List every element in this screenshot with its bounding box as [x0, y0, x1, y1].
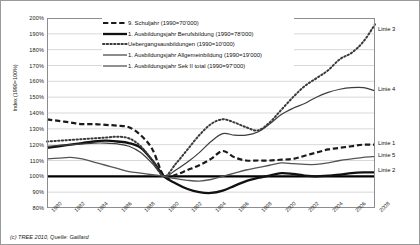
y-tick-label: 120%	[29, 142, 44, 148]
y-tick-label: 90%	[33, 189, 45, 195]
legend-item: Uebergangsausbildungen (1990=10'000)	[102, 39, 292, 50]
legend-item: 9. Schuljahr (1990=70'000)	[102, 18, 292, 29]
series-side-label: Linie 4	[378, 86, 395, 92]
y-tick-label: 170%	[29, 63, 44, 69]
y-tick-label: 160%	[29, 78, 44, 84]
series-side-label: Linie 5	[378, 152, 395, 158]
source-credit: (c) TREE 2010, Quelle: Gaillard	[10, 234, 89, 240]
legend-item-label: 9. Schuljahr (1990=70'000)	[128, 20, 199, 26]
legend-item: 1. Ausbildungsjahr Berufsbildung (1990=7…	[102, 29, 292, 40]
series-side-label: Linie 3	[378, 26, 395, 32]
legend-item: 1. Ausbildungsjahr Allgemeinbildung (199…	[102, 50, 292, 61]
legend-item-label: Uebergangsausbildungen (1990=10'000)	[128, 41, 235, 47]
legend-item-label: 1. Ausbildungsjahr Berufsbildung (1990=7…	[128, 31, 253, 37]
legend-item-label: 1. Ausbildungsjahr Allgemeinbildung (199…	[128, 52, 262, 58]
y-tick-label: 200%	[29, 15, 44, 21]
x-axis-tick-labels: 1980198219841986198819901992199419961998…	[47, 209, 375, 235]
y-tick-label: 100%	[29, 173, 44, 179]
legend-key-swatch	[102, 29, 128, 39]
chart-figure: Index (1990=100%) 200%190%180%170%160%15…	[0, 0, 420, 245]
chart-legend: 9. Schuljahr (1990=70'000)1. Ausbildungs…	[102, 16, 294, 73]
y-tick-label: 110%	[30, 158, 44, 164]
y-tick-label: 150%	[29, 94, 44, 100]
legend-key-swatch	[102, 18, 128, 28]
series-side-label: Linie 1	[378, 140, 395, 146]
y-axis-tick-labels: 200%190%180%170%160%150%140%130%120%110%…	[1, 18, 44, 208]
x-tick-label: 2008	[378, 200, 391, 213]
legend-key-swatch	[102, 50, 128, 60]
legend-key-swatch	[102, 61, 128, 71]
y-tick-label: 130%	[29, 126, 44, 132]
y-tick-label: 190%	[29, 31, 44, 37]
legend-item-label: 1. Ausbildungsjahr Sek II total (1990=97…	[128, 63, 245, 69]
y-tick-label: 180%	[29, 47, 44, 53]
legend-key-swatch	[102, 39, 128, 49]
series-side-label: Linie 2	[378, 167, 395, 173]
y-tick-label: 140%	[29, 110, 44, 116]
legend-item: 1. Ausbildungsjahr Sek II total (1990=97…	[102, 60, 292, 71]
y-tick-label: 80%	[33, 205, 45, 211]
